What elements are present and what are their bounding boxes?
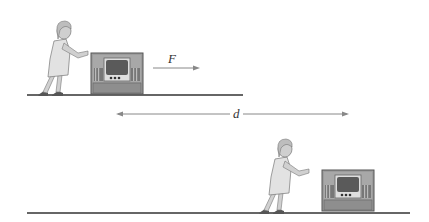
force-label: F <box>168 52 176 65</box>
top-scene <box>27 21 243 96</box>
force-arrow <box>153 66 200 71</box>
work-diagram: F d <box>0 0 429 222</box>
tv-cabinet-top <box>91 53 143 94</box>
displacement-label: d <box>230 107 243 120</box>
woman-figure-top <box>38 21 88 96</box>
woman-figure-bottom <box>259 139 309 214</box>
bottom-scene <box>27 139 410 214</box>
tv-cabinet-bottom <box>322 170 374 211</box>
